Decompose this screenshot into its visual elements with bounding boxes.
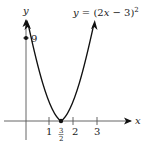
point-vertex <box>59 119 63 123</box>
x-tick-label-2: 2 <box>72 126 78 137</box>
equation-label: y = (2x − 3)2 <box>72 6 139 18</box>
parabola-plot: x y 1 3 2 2 3 9 y = (2x − 3)2 <box>0 0 144 142</box>
x-axis-label: x <box>135 115 141 126</box>
y-axis-label: y <box>22 5 29 16</box>
x-tick-label-1: 1 <box>46 126 52 137</box>
x-tick-label-3: 3 <box>94 126 100 137</box>
x-tick-label-3-2-denominator: 2 <box>59 135 63 142</box>
point-y-intercept <box>24 36 28 40</box>
x-tick-label-3-2-numerator: 3 <box>59 127 63 135</box>
curve-arrow-right-icon <box>91 20 98 30</box>
parabola-curve <box>28 24 94 121</box>
